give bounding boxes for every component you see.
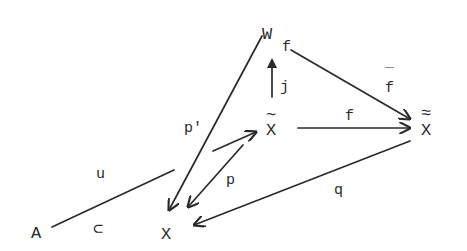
arrow-lift — [213, 132, 256, 151]
arrow-p-prime — [169, 36, 262, 210]
node-Xtilde: X — [266, 122, 276, 139]
label-p: p — [226, 173, 235, 188]
label-p-prime: p' — [184, 121, 202, 136]
label-q: q — [334, 183, 343, 198]
node-X: X — [161, 226, 171, 243]
node-Xdtilde-accent: ≈ — [421, 105, 431, 122]
label-inclusion: ⊂ — [93, 221, 103, 238]
label-j: j — [280, 80, 289, 95]
label-fbar: f — [385, 81, 394, 96]
node-W-subscript: f — [282, 40, 291, 55]
line-u — [52, 170, 174, 227]
node-A: A — [31, 225, 41, 242]
node-W: W — [262, 26, 272, 43]
commutative-diagram: W f ~ X ≈ X A X j ‾ f f p' p u q ⊂ — [0, 0, 467, 251]
node-Xdtilde: X — [421, 122, 431, 139]
label-f: f — [345, 109, 354, 124]
diagram-edges — [0, 0, 467, 251]
label-u: u — [96, 167, 105, 182]
